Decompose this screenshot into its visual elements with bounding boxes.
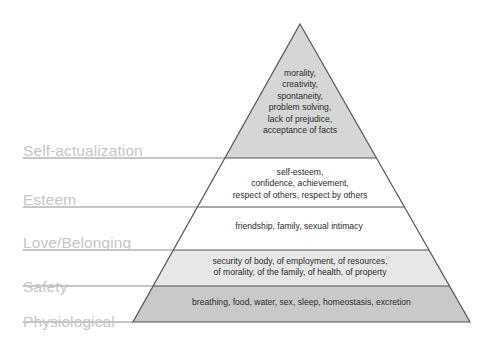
tier-content-esteem: self-esteem, confidence, achievement, re…	[192, 167, 408, 201]
tier-label-love-belonging: Love/Belonging	[23, 234, 131, 252]
tier-content-physiological: breathing, food, water, sex, sleep, home…	[133, 297, 470, 308]
tier-content-love-belonging: friendship, family, sexual intimacy	[168, 221, 430, 232]
tier-content-self-actualization: morality, creativity, spontaneity, probl…	[238, 68, 362, 136]
tier-label-esteem: Esteem	[23, 191, 76, 209]
tier-label-physiological: Physiological	[23, 313, 115, 331]
tier-label-safety: Safety	[23, 278, 68, 296]
tier-label-self-actualization: Self-actualization	[23, 142, 143, 160]
tier-content-safety: security of body, of employment, of reso…	[148, 256, 452, 279]
maslow-hierarchy-diagram: Self-actualizationEsteemLove/BelongingSa…	[0, 0, 487, 338]
